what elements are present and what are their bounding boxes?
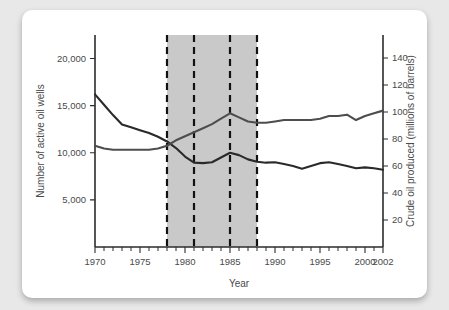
x-tick-label-2002: 2002 xyxy=(372,256,393,267)
y2-tick-label-20: 20 xyxy=(392,214,403,225)
y2-tick-label-40: 40 xyxy=(392,187,403,198)
x-axis-title: Year xyxy=(229,278,250,289)
y-axis-title: Number of active oil wells xyxy=(35,84,46,197)
shaded-period-band xyxy=(167,35,257,247)
x-tick-label-1970: 1970 xyxy=(84,256,105,267)
y-tick-label-20000: 20,000 xyxy=(57,53,86,64)
y2-tick-label-80: 80 xyxy=(392,133,403,144)
x-tick-label-1990: 1990 xyxy=(264,256,285,267)
y2-tick-label-60: 60 xyxy=(392,160,403,171)
x-tick-label-1980: 1980 xyxy=(174,256,195,267)
chart-card: 197019751980198519901995200020025,00010,… xyxy=(22,10,427,298)
x-tick-label-1995: 1995 xyxy=(309,256,330,267)
y2-axis-title: Crude oil produced (millions of barrels) xyxy=(405,55,416,227)
screenshot-root: 197019751980198519901995200020025,00010,… xyxy=(0,0,449,310)
y-tick-label-5000: 5,000 xyxy=(62,194,86,205)
x-tick-label-1985: 1985 xyxy=(219,256,240,267)
y-tick-label-10000: 10,000 xyxy=(57,147,86,158)
y-tick-label-15000: 15,000 xyxy=(57,100,86,111)
x-tick-label-1975: 1975 xyxy=(129,256,150,267)
chart-figure: 197019751980198519901995200020025,00010,… xyxy=(22,10,427,298)
oil-wells-vs-crude-production-chart: 197019751980198519901995200020025,00010,… xyxy=(22,10,427,298)
